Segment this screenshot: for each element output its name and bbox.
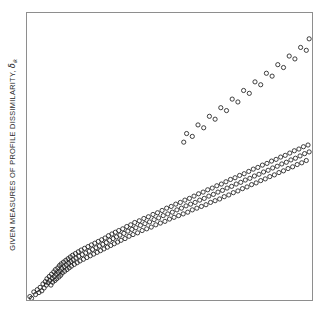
scatter-point	[279, 155, 283, 159]
scatter-point	[182, 140, 186, 144]
scatter-point	[169, 204, 173, 208]
scatter-point	[266, 168, 270, 172]
scatter-point	[207, 114, 211, 118]
scatter-point	[211, 192, 215, 196]
scatter-point	[151, 212, 155, 216]
scatter-point	[263, 177, 267, 181]
scatter-point	[121, 227, 125, 231]
scatter-point	[131, 232, 135, 236]
scatter-point	[196, 123, 200, 127]
scatter-point	[185, 131, 189, 135]
scatter-point	[190, 208, 194, 212]
scatter-point	[284, 160, 288, 164]
scatter-point	[245, 185, 249, 189]
scatter-point	[181, 212, 185, 216]
scatter-point	[297, 147, 301, 151]
scatter-point	[219, 106, 223, 110]
scatter-point	[154, 223, 158, 227]
scatter-points-layer	[27, 13, 312, 300]
scatter-point	[165, 206, 169, 210]
scatter-point	[292, 149, 296, 153]
scatter-point	[161, 214, 165, 218]
scatter-point	[216, 190, 220, 194]
scatter-point	[125, 224, 129, 228]
scatter-point	[301, 145, 305, 149]
scatter-point	[281, 65, 285, 69]
scatter-point	[166, 212, 170, 216]
scatter-point	[257, 172, 261, 176]
scatter-point	[177, 214, 181, 218]
scatter-point	[155, 211, 159, 215]
scatter-point	[234, 182, 238, 186]
scatter-point	[289, 158, 293, 162]
scatter-point	[146, 215, 150, 219]
scatter-point	[127, 234, 131, 238]
scatter-point	[275, 164, 279, 168]
scatter-point	[192, 194, 196, 198]
scatter-point	[288, 151, 292, 155]
scatter-point	[277, 170, 281, 174]
shepard-diagram-figure: GIVEN MEASURES OF PROFILE DISSIMILARITY,…	[0, 0, 324, 309]
scatter-point	[178, 200, 182, 204]
scatter-point	[123, 236, 127, 240]
scatter-point	[170, 210, 174, 214]
scatter-point	[147, 220, 151, 224]
scatter-point	[293, 57, 297, 61]
scatter-point	[231, 191, 235, 195]
delta-symbol: δ	[7, 62, 17, 67]
scatter-point	[160, 208, 164, 212]
scatter-point	[304, 48, 308, 52]
scatter-point	[213, 117, 217, 121]
scatter-point	[152, 218, 156, 222]
scatter-point	[122, 231, 126, 235]
scatter-point	[201, 190, 205, 194]
scatter-point	[243, 178, 247, 182]
scatter-point	[193, 200, 197, 204]
scatter-point	[233, 176, 237, 180]
scatter-point	[199, 204, 203, 208]
delta-subscript: ik	[12, 59, 18, 63]
scatter-point	[236, 100, 240, 104]
scatter-point	[202, 196, 206, 200]
scatter-point	[307, 37, 311, 41]
scatter-point	[129, 223, 133, 227]
scatter-point	[174, 202, 178, 206]
scatter-point	[254, 181, 258, 185]
scatter-point	[300, 161, 304, 165]
scatter-point	[265, 161, 269, 165]
scatter-point	[118, 233, 122, 237]
scatter-point	[138, 223, 142, 227]
scatter-point	[210, 186, 214, 190]
scatter-point	[207, 194, 211, 198]
scatter-point	[240, 187, 244, 191]
scatter-point	[248, 176, 252, 180]
scatter-point	[198, 198, 202, 202]
scatter-point	[196, 192, 200, 196]
scatter-point	[238, 173, 242, 177]
scatter-point	[260, 163, 264, 167]
scatter-point	[218, 197, 222, 201]
scatter-point	[304, 158, 308, 162]
scatter-point	[117, 228, 121, 232]
scatter-point	[167, 217, 171, 221]
scatter-point	[158, 221, 162, 225]
scatter-point	[172, 215, 176, 219]
scatter-point	[236, 189, 240, 193]
scatter-point	[268, 174, 272, 178]
scatter-point	[271, 166, 275, 170]
scatter-point	[137, 219, 141, 223]
scatter-point	[222, 195, 226, 199]
scatter-point	[119, 238, 123, 242]
y-axis-label-text: GIVEN MEASURES OF PROFILE DISSIMILARITY,	[8, 68, 17, 251]
scatter-point	[227, 193, 231, 197]
scatter-point	[184, 204, 188, 208]
scatter-point	[188, 202, 192, 206]
scatter-point	[130, 227, 134, 231]
scatter-point	[252, 174, 256, 178]
scatter-point	[219, 182, 223, 186]
scatter-point	[134, 226, 138, 230]
scatter-point	[179, 206, 183, 210]
scatter-point	[256, 165, 260, 169]
scatter-point	[270, 74, 274, 78]
scatter-point	[287, 54, 291, 58]
